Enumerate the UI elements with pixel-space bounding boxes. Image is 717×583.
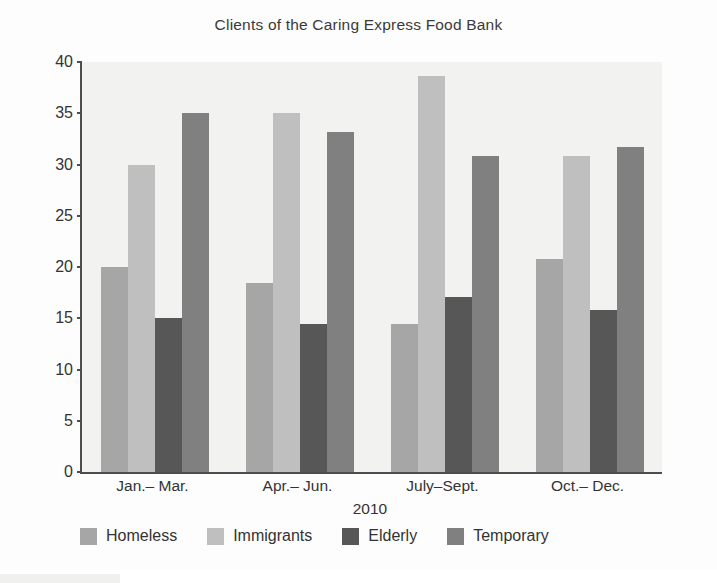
bar-temporary-2 <box>327 132 354 472</box>
legend-swatch-icon <box>80 528 97 545</box>
bar-elderly-4 <box>590 310 617 472</box>
plot-area: 0510152025303540 <box>80 62 662 474</box>
y-axis-tick-mark <box>77 369 82 371</box>
legend-item-immigrants[interactable]: Immigrants <box>207 527 312 545</box>
bar-homeless-3 <box>391 324 418 472</box>
bar-immigrants-4 <box>563 156 590 472</box>
x-axis-tick-label: Apr.– Jun. <box>225 477 370 495</box>
chart-legend: HomelessImmigrantsElderlyTemporary <box>80 527 680 545</box>
bar-temporary-1 <box>182 113 209 472</box>
chart-title: Clients of the Caring Express Food Bank <box>0 16 717 34</box>
bar-groups <box>82 62 662 472</box>
legend-label: Homeless <box>106 527 177 545</box>
y-axis-tick-mark <box>77 317 82 319</box>
bar-group <box>82 62 227 472</box>
x-axis-tick-labels: Jan.– Mar.Apr.– Jun.July–Sept.Oct.– Dec. <box>80 477 660 495</box>
y-axis-tick-mark <box>77 112 82 114</box>
legend-label: Immigrants <box>233 527 312 545</box>
bar-group <box>372 62 517 472</box>
scan-smudge <box>0 574 120 583</box>
y-axis-tick-mark <box>77 471 82 473</box>
legend-label: Elderly <box>368 527 417 545</box>
y-axis-tick-mark <box>77 215 82 217</box>
legend-item-elderly[interactable]: Elderly <box>342 527 417 545</box>
bar-homeless-1 <box>101 267 128 472</box>
bar-homeless-2 <box>246 283 273 472</box>
x-axis-tick-label: July–Sept. <box>370 477 515 495</box>
bar-temporary-3 <box>472 156 499 472</box>
bar-homeless-4 <box>536 259 563 472</box>
chart-figure: Clients of the Caring Express Food Bank … <box>0 0 717 583</box>
bar-immigrants-2 <box>273 113 300 472</box>
legend-swatch-icon <box>342 528 359 545</box>
bar-temporary-4 <box>617 147 644 472</box>
bar-immigrants-3 <box>418 76 445 472</box>
x-axis-tick-label: Jan.– Mar. <box>80 477 225 495</box>
y-axis-tick-mark <box>77 61 82 63</box>
bar-group <box>517 62 662 472</box>
legend-swatch-icon <box>207 528 224 545</box>
bar-immigrants-1 <box>128 165 155 473</box>
bar-group <box>227 62 372 472</box>
legend-label: Temporary <box>473 527 549 545</box>
bar-elderly-3 <box>445 297 472 472</box>
legend-swatch-icon <box>447 528 464 545</box>
x-axis-title: 2010 <box>80 500 660 518</box>
bar-elderly-2 <box>300 324 327 472</box>
legend-item-homeless[interactable]: Homeless <box>80 527 177 545</box>
bar-elderly-1 <box>155 318 182 472</box>
y-axis-tick-mark <box>77 164 82 166</box>
x-axis-tick-label: Oct.– Dec. <box>515 477 660 495</box>
y-axis-tick-mark <box>77 266 82 268</box>
legend-item-temporary[interactable]: Temporary <box>447 527 549 545</box>
y-axis-tick-mark <box>77 420 82 422</box>
